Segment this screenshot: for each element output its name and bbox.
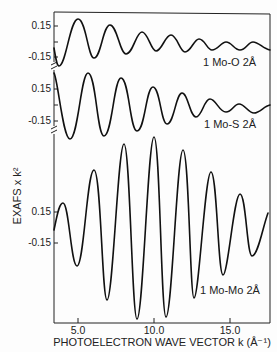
ytick-mo-s-neg: -0.15 <box>28 115 51 126</box>
exafs-figure: 0.15 -0.15 0.15 -0.15 0.15 -0.15 EXAFS x… <box>0 0 277 352</box>
x-ticks <box>78 318 230 323</box>
xtick-15: 15.0 <box>220 324 241 336</box>
ytick-mo-s-pos: 0.15 <box>32 83 52 94</box>
label-mo-mo: 1 Mo-Mo 2Å <box>200 284 261 296</box>
ytick-mo-mo-neg: -0.15 <box>28 237 51 248</box>
xtick-5: 5.0 <box>71 324 86 336</box>
xtick-10: 10.0 <box>144 324 165 336</box>
x-axis-title: PHOTOELECTRON WAVE VECTOR k (Å⁻¹) <box>53 336 271 348</box>
label-mo-s: 1 Mo-S 2Å <box>204 118 257 130</box>
ytick-mo-o-pos: 0.15 <box>32 20 52 31</box>
ytick-mo-mo-pos: 0.15 <box>32 206 52 217</box>
y-axis-title: EXAFS x k² <box>11 167 23 224</box>
chart-canvas: 0.15 -0.15 0.15 -0.15 0.15 -0.15 EXAFS x… <box>0 0 277 352</box>
ytick-mo-o-neg: -0.15 <box>28 51 51 62</box>
label-mo-o: 1 Mo-O 2Å <box>203 56 257 68</box>
